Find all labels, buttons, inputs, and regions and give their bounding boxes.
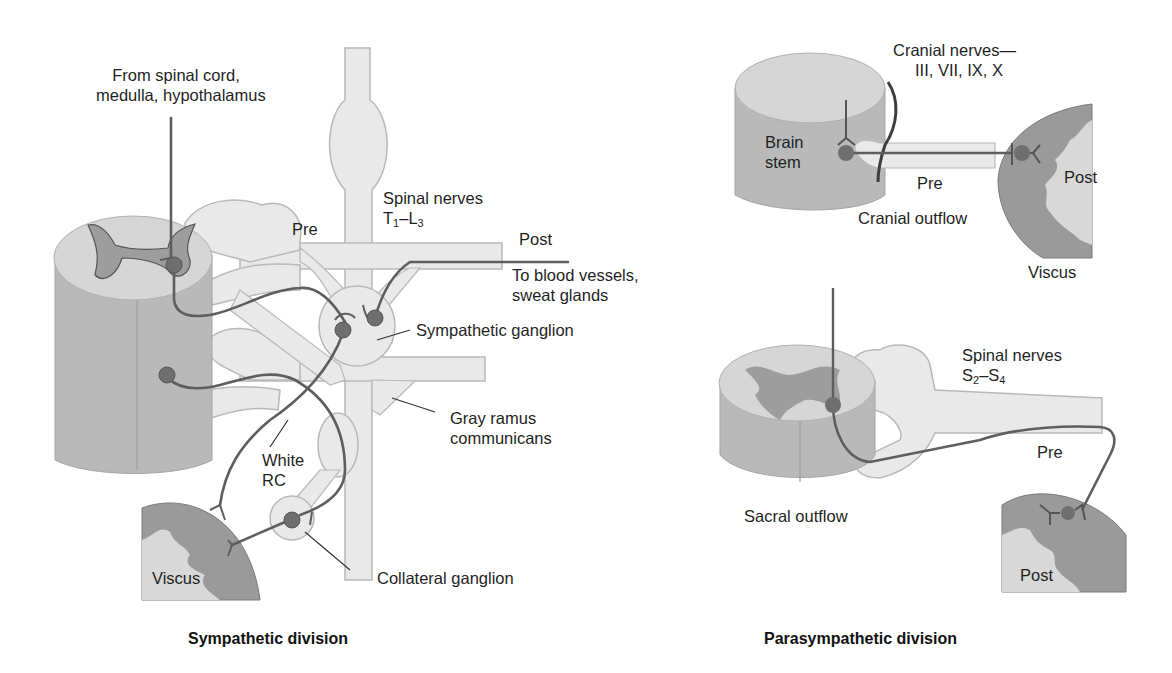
post-label-sympathetic: Post [519, 229, 552, 249]
sympathetic-ganglion-label: Sympathetic ganglion [416, 320, 574, 340]
target-label: To blood vessels, sweat glands [512, 265, 639, 305]
brain-stem-label: Brain stem [765, 132, 804, 172]
pre-label-cranial: Pre [917, 173, 943, 193]
sacral-outflow-diagram [719, 288, 1126, 592]
post-label-cranial: Post [1064, 167, 1097, 187]
sympathetic-title: Sympathetic division [188, 630, 348, 648]
collateral-ganglion-label: Collateral ganglion [377, 568, 514, 588]
sacral-spinal-nerves-label: Spinal nerves S2–S4 [962, 345, 1062, 385]
viscus-label-cranial: Viscus [1028, 262, 1076, 282]
parasympathetic-title: Parasympathetic division [764, 630, 957, 648]
pre-label-sacral: Pre [1037, 442, 1063, 462]
gray-ramus-label: Gray ramus communicans [450, 408, 552, 448]
spinal-nerve-range: T1–L3 [383, 208, 483, 228]
sacral-outflow-label: Sacral outflow [744, 506, 848, 526]
spinal-nerves-label: Spinal nerves T1–L3 [383, 188, 483, 228]
cranial-nerves-label: Cranial nerves— III, VII, IX, X [893, 40, 1016, 80]
sacral-nerve-range: S2–S4 [962, 365, 1062, 385]
pre-label-sympathetic: Pre [292, 219, 318, 239]
viscus-label-sympathetic: Viscus [152, 568, 200, 588]
cranial-outflow-label: Cranial outflow [858, 208, 967, 228]
white-rc-label: White RC [262, 450, 304, 490]
origin-label: From spinal cord, medulla, hypothalamus [96, 65, 256, 105]
sympathetic-ganglion-body [319, 286, 395, 366]
spinal-cord-thoracic [54, 216, 212, 474]
post-label-sacral: Post [1020, 565, 1053, 585]
gray-ramus [372, 380, 415, 415]
